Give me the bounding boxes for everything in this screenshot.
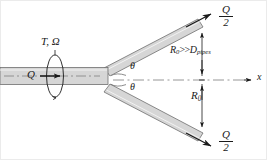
angle-lower-label: θ (130, 82, 135, 92)
junction-throat (110, 74, 160, 84)
radius-label: R0 (191, 90, 201, 103)
angle-upper-label: θ (130, 61, 135, 71)
radius-subscript: 0 (198, 95, 202, 103)
radius-condition-operator: >> (179, 44, 189, 55)
upper-branch-flow-fraction: Q 2 (219, 4, 233, 29)
inlet-flow-label: Q (27, 69, 35, 80)
x-axis-label: x (257, 72, 261, 82)
lower-branch-flow-numerator: Q (219, 129, 233, 140)
torque-omega-label: T, Ω (41, 36, 60, 47)
pipe-assembly (0, 19, 203, 141)
lower-branch-highlight (107, 90, 201, 139)
pipe-branch-diagram: T, Ω Q θ θ x R0>>Dpipes R0 Q 2 Q 2 (0, 0, 267, 160)
radius-condition-label: R0>>Dpipes (170, 45, 211, 56)
lower-branch-flow-fraction: Q 2 (219, 129, 233, 154)
lower-branch-flow-denominator: 2 (219, 142, 233, 153)
upper-branch-flow-denominator: 2 (219, 17, 233, 28)
radius-condition-right-symbol: D (190, 44, 197, 55)
upper-branch-flow-numerator: Q (219, 4, 233, 15)
radius-symbol: R (191, 89, 198, 101)
radius-condition-right-subscript: pipes (197, 48, 211, 55)
